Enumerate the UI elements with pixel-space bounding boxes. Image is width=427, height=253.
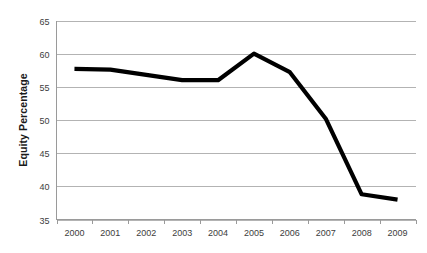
y-axis-tick-label: 50	[39, 116, 49, 126]
y-axis-tick-label: 45	[39, 149, 49, 159]
y-axis-tick-label: 55	[39, 83, 49, 93]
x-axis-tick-label: 2005	[244, 228, 264, 238]
x-axis-tick-label: 2003	[172, 228, 192, 238]
x-axis-tick-label: 2001	[100, 228, 120, 238]
x-axis-tick-label: 2009	[388, 228, 408, 238]
chart-background	[0, 0, 427, 253]
chart-canvas: 35404550556065 2000200120022003200420052…	[0, 0, 427, 253]
x-axis-tick-label: 2004	[208, 228, 228, 238]
y-axis-tick-label: 40	[39, 182, 49, 192]
x-axis-tick-label: 2007	[316, 228, 336, 238]
x-axis-tick-label: 2008	[352, 228, 372, 238]
line-chart: 35404550556065 2000200120022003200420052…	[0, 0, 427, 253]
y-axis-tick-label: 65	[39, 17, 49, 27]
x-axis-tick-label: 2002	[136, 228, 156, 238]
y-axis-tick-label: 35	[39, 216, 49, 226]
y-axis-title: Equity Percentage	[17, 73, 29, 166]
x-axis-tick-label: 2006	[280, 228, 300, 238]
y-axis-tick-label: 60	[39, 50, 49, 60]
x-axis-tick-label: 2000	[64, 228, 84, 238]
